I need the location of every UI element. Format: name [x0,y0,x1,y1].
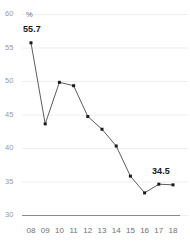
data-point-marker [86,115,89,118]
data-point-marker [101,128,104,131]
data-point-marker [157,183,160,186]
data-point-marker [115,144,118,147]
data-point-marker [72,84,75,87]
y-axis-tick-label: 50 [5,77,14,85]
chart-plot-area [0,0,190,243]
gridlines [22,15,188,216]
y-axis-tick-label: 30 [5,211,14,219]
data-point-marker [58,81,61,84]
data-point-marker [129,175,132,178]
y-axis-tick-label: 55 [5,44,14,52]
data-point-marker [172,183,175,186]
data-point-value-label: 34.5 [152,167,170,176]
y-axis-tick-label: 60 [5,10,14,18]
y-axis-tick-label: 40 [5,144,14,152]
data-point-marker [30,41,33,44]
line-chart: 60555045403530 0809101112131415161718 55… [0,0,190,243]
data-point-value-label: 55.7 [23,25,41,34]
x-axis-tick-label: 18 [165,227,181,235]
data-point-marker [143,191,146,194]
y-axis-tick-label: 35 [5,178,14,186]
y-axis-tick-label: 45 [5,111,14,119]
y-axis-unit-label: % [26,11,33,19]
data-point-marker [44,122,47,125]
